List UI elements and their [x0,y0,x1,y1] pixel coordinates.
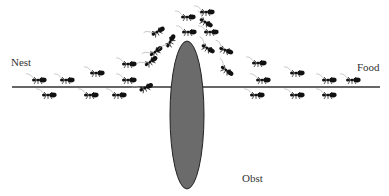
ant-icon [214,58,237,78]
ant-icon [144,22,167,41]
ant-icon [212,40,235,57]
ant-icon [340,74,361,84]
food-label: Food [357,61,380,73]
ant-icon [284,67,305,77]
ant-icon [194,6,215,16]
ant-icon [316,74,337,84]
ant-icon [26,74,47,84]
ant-icon [116,74,137,84]
ant-icon [54,74,75,84]
ant-icon [176,26,197,36]
ant-icon [284,89,305,99]
ant-icon [244,89,265,99]
ant-icon [198,26,219,36]
ant-icon [246,57,267,67]
ant-icon [78,89,99,99]
ant-icon [316,89,337,99]
ant-icon [195,37,218,56]
ant-icon [175,11,196,21]
ant-path-diagram [0,0,389,196]
ant-icon [116,58,137,68]
obstacle-label: Obst [242,172,263,184]
nest-label: Nest [11,56,31,68]
ant-icon [84,67,105,77]
ant-icon [137,52,160,72]
ant-icon [250,74,271,84]
ant-icon [106,89,127,99]
ant-icon [159,31,178,54]
ant-icon [36,89,57,99]
obstacle-ellipse [170,41,204,189]
